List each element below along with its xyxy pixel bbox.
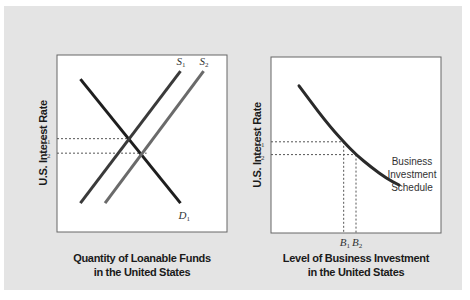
left-x-axis-title-line1: Quantity of Loanable Funds xyxy=(73,252,211,264)
right-x-axis-title-line2: in the United States xyxy=(308,266,405,278)
business-investment-chart: U.S. Interest Rate i1B1i2B2BusinessInves… xyxy=(251,57,441,278)
curve-label-line-2: Investment xyxy=(388,169,437,180)
loanable-funds-chart: U.S. Interest Rate i1i2D1S1S2 Quantity o… xyxy=(37,55,227,278)
figure-svg: U.S. Interest Rate i1i2D1S1S2 Quantity o… xyxy=(0,0,470,300)
curve-label-line-3: Schedule xyxy=(391,182,433,193)
right-x-axis-title-line1: Level of Business Investment xyxy=(283,252,430,264)
curve-label-line-1: Business xyxy=(392,156,433,167)
tick-label-B1: B1 xyxy=(340,236,351,250)
left-x-axis-title-line2: in the United States xyxy=(94,266,191,278)
tick-label-B2: B2 xyxy=(352,236,363,250)
